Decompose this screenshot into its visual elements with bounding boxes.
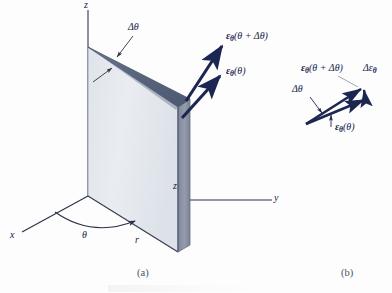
x-axis-line (22, 196, 88, 232)
figure-container: z y x z r θ Δθ εθ(θ + Δθ) εθ(θ) (a) εθ(θ… (0, 0, 392, 293)
eps-arg-a-inner: (θ) (234, 65, 246, 76)
x-axis-label: x (10, 230, 14, 240)
panel-b-delta-theta-label: Δθ (292, 84, 303, 94)
delta-theta-plane-strip (178, 99, 190, 252)
panel-a-delta-theta-label: Δθ (128, 22, 139, 32)
delta-eps-symbol-b: Δε (363, 62, 373, 73)
panel-b-vector-outer-label: εθ(θ + Δθ) (301, 63, 343, 74)
panel-b-delta-theta-leader (310, 97, 322, 113)
z-axis-label: z (84, 0, 88, 10)
eps-arg-a-outer: (θ + Δθ) (234, 30, 268, 41)
y-axis-label: y (274, 193, 278, 203)
panel-b-caption: (b) (341, 268, 353, 279)
panel-a-caption: (a) (137, 268, 149, 279)
page-cutoff-remnant (108, 285, 288, 292)
theta-angle-label: θ (82, 230, 87, 240)
delta-eps-subscript-b: θ (373, 66, 377, 75)
figure-graphics (0, 0, 392, 293)
panel-a-vector-outer-label: εθ(θ + Δθ) (226, 31, 268, 42)
eps-arg-b-outer: (θ + Δθ) (309, 62, 343, 73)
inner-z-label: z (173, 181, 177, 191)
radial-label-r: r (135, 235, 139, 245)
delta-theta-leader-upper (117, 36, 133, 57)
eps-arg-b-inner: (θ) (343, 121, 355, 132)
panel-b-delta-eps-label: Δεθ (363, 63, 377, 74)
vector-eps-theta-plus-delta-arrow-b (306, 89, 361, 124)
panel-b-leader-outer (338, 76, 358, 87)
panel-a-vector-inner-label: εθ(θ) (226, 66, 246, 77)
panel-b-vector-inner-label: εθ(θ) (335, 122, 355, 133)
